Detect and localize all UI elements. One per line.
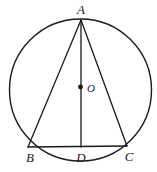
center-point-O — [78, 85, 83, 90]
label-C: C — [125, 149, 134, 164]
geometry-diagram: A B D C O — [0, 0, 157, 172]
label-D: D — [75, 150, 86, 165]
geometry-canvas: A B D C O — [0, 0, 157, 172]
label-A: A — [76, 2, 85, 17]
segment-BC — [28, 146, 127, 147]
label-B: B — [26, 150, 34, 165]
segment-AB — [28, 20, 81, 147]
label-O: O — [87, 82, 95, 94]
